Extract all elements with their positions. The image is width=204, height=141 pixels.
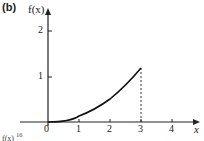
x-axis-label: x xyxy=(194,123,199,135)
x-tick-4: 4 xyxy=(169,123,174,134)
x-tick-0: 0 xyxy=(44,123,49,134)
y-axis-arrow-icon xyxy=(45,8,51,15)
y-tick-2: 2 xyxy=(38,24,43,35)
curve-f xyxy=(48,68,141,122)
y-tick-1: 1 xyxy=(38,70,43,81)
x-tick-2: 2 xyxy=(107,123,112,134)
chart-plot xyxy=(0,0,204,141)
fragment-sup: 16 xyxy=(16,131,23,138)
x-tick-1: 1 xyxy=(76,123,81,134)
x-tick-3: 3 xyxy=(138,123,143,134)
bottom-text-fragment: f(x) 16 xyxy=(2,131,23,141)
fragment-text: f(x) xyxy=(2,134,14,141)
